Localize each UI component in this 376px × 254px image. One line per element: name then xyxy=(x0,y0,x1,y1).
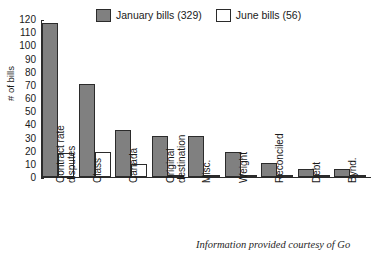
y-tick-label: 0 xyxy=(30,172,36,183)
y-tick-label: 40 xyxy=(25,119,36,130)
x-axis-label-text: Misc. xyxy=(201,160,212,183)
x-axis-label-line: Weight xyxy=(238,152,249,183)
y-tick-label: 50 xyxy=(25,106,36,117)
x-axis-label-line: Canada xyxy=(128,148,139,183)
x-axis-label-text: Weight xyxy=(238,152,249,183)
plot-area: 0102030405060708090100110120 xyxy=(41,20,371,178)
y-tick-label: 80 xyxy=(25,67,36,78)
x-axis-label-text: Class xyxy=(92,158,103,183)
x-axis-label: Weight xyxy=(225,182,262,244)
x-axis-label-line: Class xyxy=(92,158,103,183)
x-axis-label-text: Debt xyxy=(311,162,322,183)
x-axis-label-text: Canada xyxy=(128,148,139,183)
x-axis-label-line: Debt xyxy=(311,162,322,183)
x-axis-label-line: Contract rate xyxy=(55,125,66,183)
x-axis-label: Bynd. xyxy=(334,182,371,244)
x-axis-label-text: Originaldestination xyxy=(165,135,187,183)
y-tick-label: 110 xyxy=(20,27,36,38)
x-axis-label-text: Reconciled xyxy=(274,134,285,183)
x-axis-label: Reconciled xyxy=(261,182,298,244)
x-axis-labels: Contract ratedisputesClassCanadaOriginal… xyxy=(42,182,371,244)
x-axis-label-text: Contract ratedisputes xyxy=(55,125,77,183)
footer-note: Information provided courtesy of Go xyxy=(196,239,350,250)
x-axis-label-line: Original xyxy=(165,149,176,183)
x-axis-label-line: destination xyxy=(176,135,187,183)
y-tick-label: 100 xyxy=(19,40,36,51)
x-axis-label: Originaldestination xyxy=(152,182,189,244)
y-tick-label: 30 xyxy=(25,133,36,144)
y-tick-label: 90 xyxy=(25,54,36,65)
bar-chart: January bills (329) June bills (56) # of… xyxy=(0,0,376,254)
x-axis-label: Misc. xyxy=(188,182,225,244)
bar-group xyxy=(298,19,335,177)
y-tick-label: 120 xyxy=(19,14,36,25)
y-axis-title: # of bills xyxy=(5,54,16,114)
x-axis-label: Contract ratedisputes xyxy=(42,182,79,244)
x-axis-label-line: Reconciled xyxy=(274,134,285,183)
y-tick-label: 10 xyxy=(25,159,36,170)
bar-group xyxy=(334,19,371,177)
y-tick-mark xyxy=(41,178,44,179)
x-axis-label-line: disputes xyxy=(66,125,77,183)
bar-group xyxy=(188,19,225,177)
x-axis-label: Canada xyxy=(115,182,152,244)
y-tick-label: 20 xyxy=(25,146,36,157)
bar-groups xyxy=(42,19,371,177)
x-axis-label: Debt xyxy=(298,182,335,244)
bar-group xyxy=(79,19,116,177)
y-tick-label: 70 xyxy=(25,80,36,91)
x-axis-label-line: Misc. xyxy=(201,160,212,183)
y-tick-label: 60 xyxy=(25,93,36,104)
x-axis-label-line: Bynd. xyxy=(347,157,358,183)
x-axis-label-text: Bynd. xyxy=(347,157,358,183)
x-axis-label: Class xyxy=(79,182,116,244)
